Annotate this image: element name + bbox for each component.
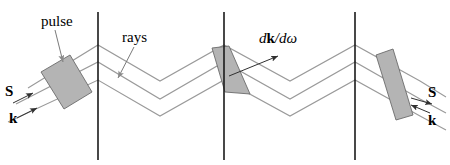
label-poynting-left: S (5, 84, 13, 99)
leader-pulse (55, 30, 63, 62)
arrow-s-left (13, 93, 33, 103)
label-dk-domega: dk/dω (259, 31, 297, 46)
arrow-k-left (17, 108, 37, 118)
label-wavevector-right: k (428, 113, 436, 128)
label-wavevector-left: k (9, 111, 17, 126)
pulse-left (41, 55, 92, 109)
leader-rays (118, 47, 134, 78)
pulse-right (376, 49, 413, 120)
pulse-group (41, 46, 413, 120)
dkdw-d2: d (279, 30, 287, 46)
ray-pulse-diagram: pulse rays dk/dω S k S k (0, 0, 450, 165)
label-pulse: pulse (41, 14, 73, 29)
label-poynting-right: S (428, 85, 436, 100)
dkdw-omega: ω (287, 30, 298, 46)
dkdw-d1: d (259, 30, 267, 46)
label-rays: rays (122, 30, 147, 45)
dkdw-k: k (267, 30, 275, 46)
